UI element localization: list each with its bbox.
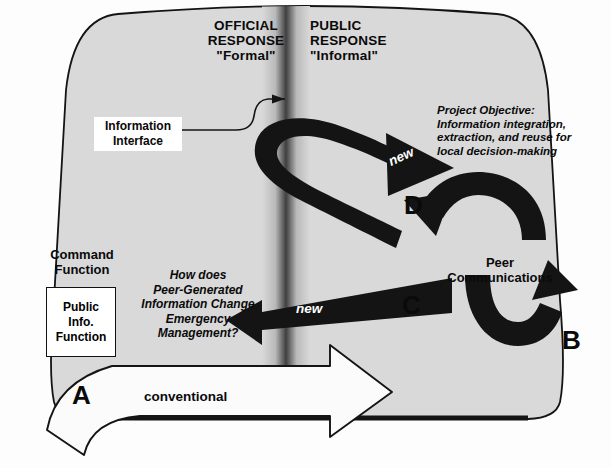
project-objective-line2: extraction, and reuse for	[437, 131, 597, 145]
column-header-public: PUBLIC RESPONSE "Informal"	[310, 18, 420, 63]
node-public-info-function: Public Info. Function	[46, 287, 116, 357]
flow-label-a-conventional: conventional	[144, 389, 227, 404]
flow-label-c-new: new	[296, 301, 322, 316]
flow-letter-d: D	[404, 192, 423, 218]
node-command-function: Command Function	[28, 247, 136, 277]
research-question-callout: How does Peer-Generated Information Chan…	[128, 268, 268, 341]
official-line3: "Formal"	[204, 48, 288, 63]
flow-letter-c: C	[402, 292, 421, 318]
public-info-line2: Info.	[56, 315, 107, 330]
official-line1: OFFICIAL	[204, 18, 288, 33]
public-line1: PUBLIC	[310, 18, 420, 33]
public-info-line1: Public	[56, 300, 107, 315]
node-peer-communications: Peer Communications	[428, 255, 572, 285]
project-objective-line3: local decision-making	[437, 145, 597, 159]
public-line3: "Informal"	[310, 48, 420, 63]
flow-letter-b: B	[562, 327, 581, 353]
research-question-line4: Emergency	[128, 312, 268, 327]
official-line2: RESPONSE	[204, 33, 288, 48]
information-interface-line1: Information	[99, 119, 177, 134]
public-info-line3: Function	[56, 330, 107, 345]
research-question-line1: How does	[128, 268, 268, 283]
project-objective-line1: Information integration,	[437, 118, 597, 132]
information-interface-callout: Information Interface	[94, 117, 182, 151]
public-line2: RESPONSE	[310, 33, 420, 48]
research-question-line3: Information Change	[128, 297, 268, 312]
peer-comms-line1: Peer	[428, 255, 572, 270]
research-question-line5: Management?	[128, 326, 268, 341]
command-function-line2: Function	[28, 262, 136, 277]
information-interface-line2: Interface	[99, 134, 177, 149]
peer-comms-line2: Communications	[428, 270, 572, 285]
project-objective-callout: Project Objective: Information integrati…	[437, 104, 597, 158]
flow-letter-a: A	[72, 382, 91, 408]
diagram-graphics	[0, 0, 611, 468]
diagram-canvas: OFFICIAL RESPONSE "Formal" PUBLIC RESPON…	[0, 0, 611, 468]
project-objective-heading: Project Objective:	[437, 104, 597, 118]
column-header-official: OFFICIAL RESPONSE "Formal"	[204, 18, 288, 63]
research-question-line2: Peer-Generated	[128, 283, 268, 298]
command-function-line1: Command	[28, 247, 136, 262]
